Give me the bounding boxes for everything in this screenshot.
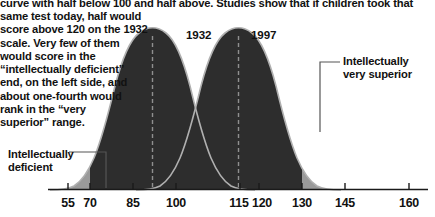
caption-line: rank in the “very: [0, 103, 178, 116]
annotation-intellectually-very-superior: Intellectually very superior: [343, 55, 412, 81]
annotation-line: very superior: [343, 68, 412, 81]
tick-label-145: 145: [335, 196, 355, 210]
annotation-intellectually-deficient: Intellectually deficient: [8, 148, 74, 174]
caption-line: about one-fourth would: [0, 90, 178, 103]
tick-label-100: 100: [166, 196, 186, 210]
annotation-line: Intellectually: [8, 148, 74, 161]
tick-label-55: 55: [61, 196, 74, 210]
caption-line: scale. Very few of them: [0, 37, 178, 50]
annotation-line: Intellectually: [343, 55, 412, 68]
tick-label-115: 115: [229, 196, 248, 210]
curve-label-1932: 1932: [186, 28, 211, 41]
curve-label-1997: 1997: [251, 28, 276, 41]
leader-line-superior: [320, 62, 340, 132]
caption-line: end, on the left side, and: [0, 76, 178, 89]
caption-line: “intellectually deficient”: [0, 63, 178, 76]
caption-line: would score in the: [0, 50, 178, 63]
caption-line: superior” range.: [0, 116, 178, 129]
iq-distribution-figure: curve with half below 100 and half above…: [0, 0, 435, 217]
tick-label-70: 70: [83, 196, 96, 210]
tick-label-160: 160: [399, 196, 419, 210]
annotation-line: deficient: [8, 161, 74, 174]
tick-label-120: 120: [252, 196, 272, 210]
tick-label-85: 85: [126, 196, 139, 210]
caption-top-line: curve with half below 100 and half above…: [0, 0, 435, 10]
caption-paragraph: same test today, half would score above …: [0, 10, 178, 130]
caption-line: same test today, half would: [0, 10, 178, 23]
caption-line: score above 120 on the 1932: [0, 23, 178, 36]
tick-label-130: 130: [292, 196, 312, 210]
